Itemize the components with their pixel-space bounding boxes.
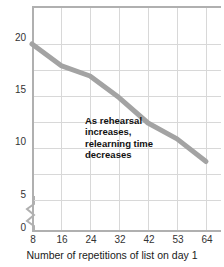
- plot-area: As rehearsal increases, relearning time …: [32, 6, 221, 232]
- chart-screenshot: 20 15 10 5 0 As rehearsal increases, rel: [0, 0, 224, 267]
- x-axis-title: Number of repetitions of list on day 1: [0, 249, 224, 262]
- y-axis-labels: 20 15 10 5 0: [0, 0, 26, 267]
- x-tick-label-16: 16: [51, 234, 73, 245]
- x-tick-label-53: 53: [167, 234, 189, 245]
- y-tick-label-10: 10: [15, 137, 26, 147]
- x-tick-label-42: 42: [138, 234, 160, 245]
- x-tick-label-8: 8: [22, 234, 44, 245]
- chart-annotation: As rehearsal increases, relearning time …: [85, 115, 171, 161]
- annotation-line-4: decreases: [85, 149, 171, 160]
- annotation-line-2: increases,: [85, 126, 171, 137]
- x-tick-label-32: 32: [109, 234, 131, 245]
- y-tick-label-15: 15: [15, 85, 26, 95]
- annotation-line-3: relearning time: [85, 138, 171, 149]
- y-tick-label-20: 20: [15, 33, 26, 43]
- x-tick-label-64: 64: [196, 234, 218, 245]
- x-tick-label-24: 24: [80, 234, 102, 245]
- annotation-line-1: As rehearsal: [85, 115, 171, 126]
